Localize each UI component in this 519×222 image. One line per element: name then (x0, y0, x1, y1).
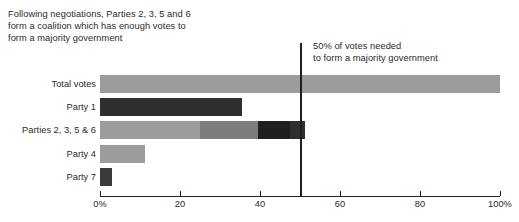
bar-row: Party 4 (0, 145, 519, 163)
bar-segment-party-2 (100, 121, 200, 139)
x-axis-line (100, 196, 500, 197)
category-label-3: Parties 2, 3, 5 & 6 (0, 121, 96, 139)
x-tick-label-0: 0% (93, 199, 106, 209)
category-label-2: Party 1 (0, 98, 96, 116)
bar-segment-party-5 (258, 121, 290, 139)
bar-row: Party 1 (0, 98, 519, 116)
bar-segment-party-7 (100, 168, 112, 186)
bar-segment-party-3 (200, 121, 258, 139)
category-label-4: Party 4 (0, 145, 96, 163)
x-tick-label-5: 100% (488, 199, 512, 209)
x-tick-label-2: 40 (255, 199, 265, 209)
plot-area: Total votesParty 1Parties 2, 3, 5 & 6Par… (0, 0, 519, 222)
category-label-1: Total votes (0, 75, 96, 93)
majority-threshold-line (300, 43, 302, 196)
x-tick-label-3: 60 (335, 199, 345, 209)
bar-segment-party-6 (290, 121, 305, 139)
bar-segment-party-4 (100, 145, 145, 163)
bar-row: Total votes (0, 75, 519, 93)
bar-row: Party 7 (0, 168, 519, 186)
coalition-votes-chart: Following negotiations, Parties 2, 3, 5 … (0, 0, 519, 222)
x-tick-label-4: 80 (415, 199, 425, 209)
x-tick-5 (500, 191, 501, 196)
category-label-5: Party 7 (0, 168, 96, 186)
bar-segment-party-1 (100, 98, 242, 116)
x-tick-label-1: 20 (175, 199, 185, 209)
bar-row: Parties 2, 3, 5 & 6 (0, 121, 519, 139)
